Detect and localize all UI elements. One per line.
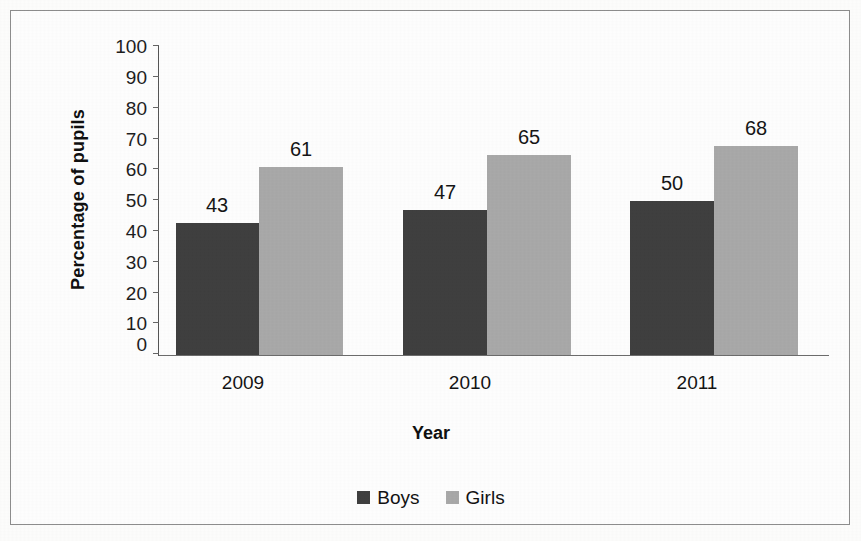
legend-swatch-icon-girls xyxy=(446,491,459,504)
y-tick-label-70: 70 xyxy=(103,130,147,149)
bar-girls-2011[interactable] xyxy=(714,146,798,355)
bar-boys-2011[interactable] xyxy=(630,201,714,355)
y-tick-label-30: 30 xyxy=(103,253,147,272)
y-tick-label-90: 90 xyxy=(103,68,147,87)
y-tick-label-40: 40 xyxy=(103,222,147,241)
x-category-label-2010: 2010 xyxy=(410,373,530,393)
y-tick-label-10: 10 xyxy=(103,314,147,333)
x-axis-line xyxy=(159,355,829,356)
x-category-label-2009: 2009 xyxy=(183,373,303,393)
y-tick-label-20: 20 xyxy=(103,284,147,303)
y-tick-label-80: 80 xyxy=(103,99,147,118)
bar-boys-2009[interactable] xyxy=(176,223,259,355)
x-axis-title: Year xyxy=(11,423,851,444)
x-category-label-2011: 2011 xyxy=(637,373,757,393)
legend-label-girls: Girls xyxy=(466,488,505,507)
bar-girls-2009[interactable] xyxy=(259,167,343,355)
bar-value-girls-2011: 68 xyxy=(726,118,786,138)
chart-page: Percentage of pupils 100 90 80 70 60 50 … xyxy=(0,0,861,541)
bar-boys-2010[interactable] xyxy=(403,210,487,355)
bar-value-boys-2009: 43 xyxy=(187,195,247,215)
y-tick-label-50: 50 xyxy=(103,191,147,210)
y-tick-label-60: 60 xyxy=(103,160,147,179)
legend-item-boys[interactable]: Boys xyxy=(357,488,419,507)
y-axis-tick-labels: 100 90 80 70 60 50 40 30 20 10 0 xyxy=(63,11,147,541)
bar-value-boys-2011: 50 xyxy=(642,173,702,193)
bar-value-boys-2010: 47 xyxy=(415,182,475,202)
chart-legend: Boys Girls xyxy=(11,488,851,507)
bar-value-girls-2010: 65 xyxy=(499,127,559,147)
chart-frame: Percentage of pupils 100 90 80 70 60 50 … xyxy=(10,10,850,525)
y-tick-mark-100 xyxy=(153,45,159,46)
bar-value-girls-2009: 61 xyxy=(271,139,331,159)
bar-girls-2010[interactable] xyxy=(487,155,571,355)
legend-item-girls[interactable]: Girls xyxy=(446,488,505,507)
legend-label-boys: Boys xyxy=(377,488,419,507)
y-tick-label-100: 100 xyxy=(103,37,147,56)
plot-area: 43 61 47 65 50 68 xyxy=(159,47,829,355)
y-tick-label-0: 0 xyxy=(103,335,147,354)
legend-swatch-icon-boys xyxy=(357,491,370,504)
